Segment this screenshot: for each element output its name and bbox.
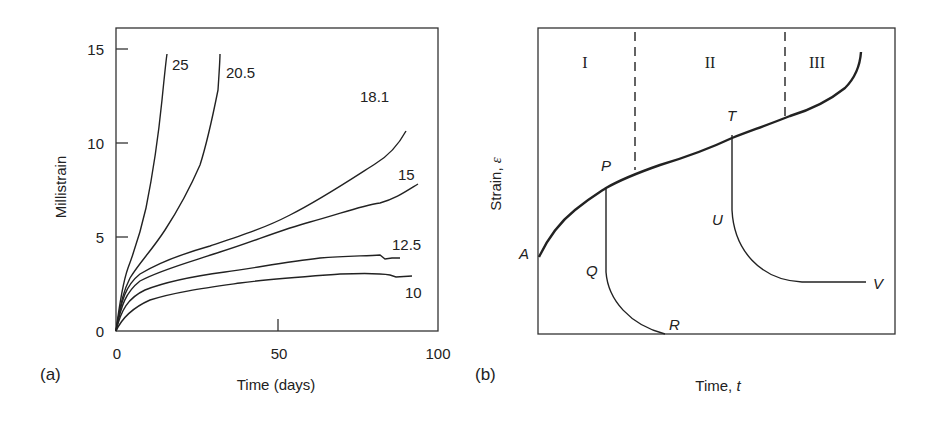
figure: 15 10 5 0 0 50 100 Millistrain Time (day… bbox=[0, 0, 929, 421]
creep-curve bbox=[539, 52, 861, 257]
point-label-q: Q bbox=[586, 262, 598, 279]
curve-12-5 bbox=[116, 255, 400, 331]
xtick-label: 0 bbox=[113, 345, 121, 362]
strain-symbol: ε bbox=[488, 157, 504, 163]
xtick-label: 50 bbox=[271, 345, 288, 362]
y-axis-label: Millistrain bbox=[52, 156, 69, 219]
curve-10 bbox=[116, 273, 412, 331]
ytick-label: 10 bbox=[87, 135, 104, 152]
ytick-label: 0 bbox=[96, 323, 104, 340]
panel-b-label: (b) bbox=[475, 365, 496, 384]
curve-label-15: 15 bbox=[398, 166, 415, 183]
point-label-v: V bbox=[873, 275, 885, 292]
curve-25 bbox=[116, 54, 167, 331]
recovery-curve-t bbox=[732, 135, 866, 282]
curve-label-18-1: 18.1 bbox=[360, 88, 389, 105]
x-axis-label: Time, t bbox=[695, 377, 741, 394]
point-label-t: T bbox=[727, 107, 738, 124]
region-label-iii: III bbox=[809, 54, 825, 71]
time-symbol: t bbox=[736, 377, 741, 394]
y-axis-label: Strain, ε bbox=[487, 157, 504, 211]
point-label-p: P bbox=[601, 157, 611, 174]
xtick-label: 100 bbox=[425, 345, 450, 362]
y-axis-label-text: Strain, bbox=[487, 163, 504, 211]
region-label-i: I bbox=[582, 54, 587, 71]
curve-label-10: 10 bbox=[405, 284, 422, 301]
panel-a: 15 10 5 0 0 50 100 Millistrain Time (day… bbox=[40, 28, 451, 393]
curve-15 bbox=[116, 184, 418, 331]
point-label-a: A bbox=[518, 245, 529, 262]
ytick-label: 5 bbox=[96, 229, 104, 246]
x-axis-label: Time (days) bbox=[237, 376, 316, 393]
recovery-curve-p bbox=[606, 188, 665, 334]
ytick-label: 15 bbox=[87, 41, 104, 58]
curve-label-20-5: 20.5 bbox=[226, 64, 255, 81]
region-label-ii: II bbox=[705, 54, 716, 71]
curve-label-12-5: 12.5 bbox=[392, 236, 421, 253]
point-label-u: U bbox=[712, 211, 723, 228]
x-axis-label-text: Time, bbox=[695, 377, 736, 394]
curve-label-25: 25 bbox=[172, 56, 189, 73]
curve-18-1 bbox=[116, 131, 406, 331]
panel-b: I II III A P Q R T U V Strain, ε Time, t… bbox=[475, 28, 895, 394]
panel-a-label: (a) bbox=[40, 365, 61, 384]
panel-b-frame bbox=[538, 28, 895, 334]
point-label-r: R bbox=[669, 316, 680, 333]
